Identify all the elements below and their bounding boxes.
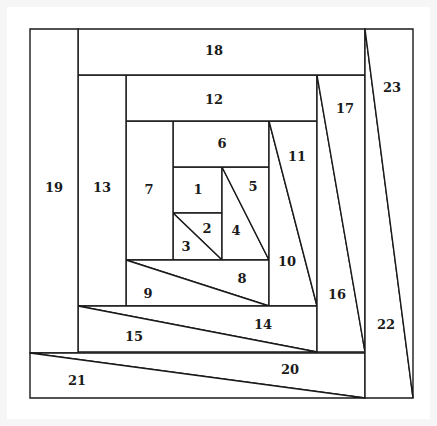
piece-label-13: 13 (93, 180, 111, 195)
piece-label-17: 17 (336, 101, 354, 116)
piece-label-8: 8 (237, 271, 246, 286)
piece-label-9: 9 (143, 286, 152, 301)
piece-label-21: 21 (68, 373, 86, 388)
piece-label-11: 11 (288, 149, 306, 164)
piece-label-16: 16 (328, 287, 346, 302)
piece-label-19: 19 (45, 180, 63, 195)
piece-label-23: 23 (383, 80, 401, 95)
piece-label-10: 10 (278, 254, 296, 269)
piece-label-22: 22 (377, 317, 395, 332)
piece-label-6: 6 (217, 136, 226, 151)
quilt-block-diagram: 1234567891011121314151617181920212223 (0, 0, 437, 426)
piece-label-2: 2 (202, 221, 211, 236)
piece-label-12: 12 (205, 92, 223, 107)
pieces-layer (30, 29, 413, 398)
piece-label-5: 5 (248, 179, 257, 194)
piece-label-1: 1 (193, 182, 202, 197)
piece-label-20: 20 (281, 362, 299, 377)
piece-label-14: 14 (254, 317, 272, 332)
piece-label-3: 3 (181, 239, 190, 254)
piece-label-18: 18 (205, 43, 223, 58)
piece-label-7: 7 (144, 182, 153, 197)
piece-label-15: 15 (125, 329, 143, 344)
piece-label-4: 4 (231, 223, 240, 238)
